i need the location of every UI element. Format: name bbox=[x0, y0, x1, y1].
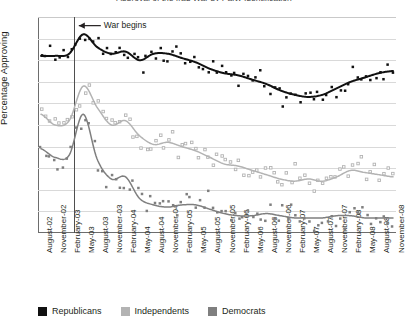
chart-page: Approval of the Iraq War by Party Identi… bbox=[0, 0, 408, 330]
legend-swatch bbox=[208, 307, 217, 316]
y-axis-label: Percentage Approving bbox=[0, 32, 9, 125]
legend: RepublicansIndependentsDemocrats bbox=[38, 306, 285, 316]
legend-item[interactable]: Republicans bbox=[38, 306, 102, 316]
x-tick-label: November-08 bbox=[397, 205, 406, 253]
chart-title: Approval of the Iraq War by Party Identi… bbox=[0, 0, 408, 1]
legend-label: Democrats bbox=[222, 306, 266, 316]
legend-swatch bbox=[38, 307, 47, 316]
plot-area: 0102030405060708090100 August-02November… bbox=[38, 17, 396, 233]
legend-swatch bbox=[121, 307, 130, 316]
legend-label: Independents bbox=[135, 306, 190, 316]
legend-item[interactable]: Independents bbox=[121, 306, 190, 316]
legend-label: Republicans bbox=[52, 306, 102, 316]
legend-item[interactable]: Democrats bbox=[208, 306, 266, 316]
trend-lines-layer bbox=[38, 17, 396, 233]
